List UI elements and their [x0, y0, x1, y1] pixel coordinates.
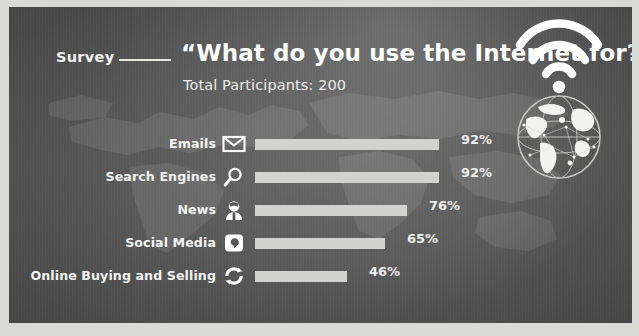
- internet-graphic: [500, 15, 618, 185]
- chart-panel: Survey “What do you use the Internet for…: [9, 7, 632, 323]
- bar-fill: [255, 172, 439, 183]
- table-row: Social Media 65%: [9, 232, 632, 258]
- bar-fill: [255, 139, 439, 150]
- bar-value-label: 92%: [461, 165, 492, 180]
- bar-value-label: 46%: [369, 264, 400, 279]
- bar-track: [255, 172, 455, 183]
- table-row: News 76%: [9, 199, 632, 225]
- kicker-label: Survey: [56, 49, 114, 65]
- globe-icon: [518, 96, 600, 178]
- bar-category-label: Search Engines: [9, 169, 216, 184]
- participants-subtitle: Total Participants: 200: [183, 77, 346, 93]
- speech-bubble-icon: [222, 232, 246, 254]
- table-row: Online Buying and Selling 46%: [9, 265, 632, 291]
- bar-category-label: News: [9, 202, 216, 217]
- bar-track: [255, 205, 455, 216]
- bar-fill: [255, 205, 407, 216]
- bar-value-label: 92%: [461, 132, 492, 147]
- refresh-cycle-icon: [222, 265, 246, 287]
- bar-value-label: 76%: [429, 198, 460, 213]
- bar-fill: [255, 271, 347, 282]
- magnifier-icon: [222, 166, 246, 188]
- bar-category-label: Social Media: [9, 235, 216, 250]
- bar-category-label: Online Buying and Selling: [9, 268, 216, 283]
- panel-content: Survey “What do you use the Internet for…: [9, 7, 632, 323]
- bar-track: [255, 271, 455, 282]
- news-anchor-icon: [222, 199, 246, 221]
- bar-value-label: 65%: [407, 231, 438, 246]
- envelope-icon: [222, 133, 246, 155]
- bar-category-label: Emails: [9, 136, 216, 151]
- bar-track: [255, 139, 455, 150]
- bar-fill: [255, 238, 385, 249]
- wifi-signal-icon: [520, 23, 598, 93]
- poster: Survey “What do you use the Internet for…: [0, 0, 639, 336]
- header-divider: [119, 59, 171, 61]
